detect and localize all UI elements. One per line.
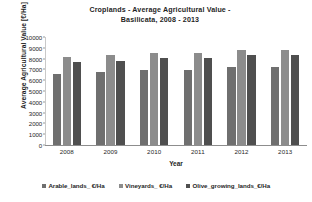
legend-item[interactable]: Olive_growing_lands_€/Ha xyxy=(186,182,270,189)
chart-title: Croplands - Average Agricultural Value -… xyxy=(30,6,290,25)
y-tick-label: 1000 xyxy=(29,131,42,138)
bar[interactable] xyxy=(73,62,82,145)
y-tick-label: 9000 xyxy=(29,44,42,51)
legend-item[interactable]: Vineyards_ €/Ha xyxy=(119,182,172,189)
y-tick-label: 7000 xyxy=(29,66,42,73)
y-axis-title: Average Agricultural Value [€/Ha] xyxy=(20,0,27,116)
y-tick-label: 10000 xyxy=(26,34,42,41)
bar[interactable] xyxy=(204,58,213,145)
bar-groups xyxy=(45,37,307,145)
legend-label: Olive_growing_lands_€/Ha xyxy=(193,182,271,189)
bar[interactable] xyxy=(291,55,300,145)
legend-item[interactable]: Arable_lands_ €/Ha xyxy=(42,182,105,189)
bar[interactable] xyxy=(281,50,290,145)
bar[interactable] xyxy=(227,67,236,145)
y-tick-label: 3000 xyxy=(29,109,42,116)
y-tick-label: 5000 xyxy=(29,88,42,95)
bar[interactable] xyxy=(116,61,125,145)
bar-group xyxy=(220,37,264,145)
chart-legend: Arable_lands_ €/HaVineyards_ €/HaOlive_g… xyxy=(18,182,294,189)
bar[interactable] xyxy=(271,67,280,145)
x-tick-label: 2012 xyxy=(220,148,264,155)
chart-title-line-1: Croplands - Average Agricultural Value - xyxy=(30,6,290,16)
y-tick-label: 8000 xyxy=(29,55,42,62)
x-tick-label: 2011 xyxy=(176,148,220,155)
x-tick-label: 2010 xyxy=(132,148,176,155)
x-tick-label: 2013 xyxy=(263,148,307,155)
bar[interactable] xyxy=(96,72,105,145)
legend-swatch-icon xyxy=(186,184,190,188)
bar-group xyxy=(263,37,307,145)
x-tick-label: 2009 xyxy=(89,148,133,155)
bar[interactable] xyxy=(194,53,203,145)
bar[interactable] xyxy=(106,55,115,145)
y-tick-label: 2000 xyxy=(29,120,42,127)
legend-swatch-icon xyxy=(119,184,123,188)
bar[interactable] xyxy=(53,74,62,145)
legend-swatch-icon xyxy=(42,184,46,188)
y-tick-label: 4000 xyxy=(29,98,42,105)
bar[interactable] xyxy=(160,58,169,145)
y-tick-label: 0 xyxy=(39,142,42,149)
bar[interactable] xyxy=(140,70,149,145)
bar[interactable] xyxy=(247,55,256,145)
plot-area: 1000090008000700060005000400030002000100… xyxy=(45,37,307,145)
legend-label: Vineyards_ €/Ha xyxy=(125,182,172,189)
bar[interactable] xyxy=(184,70,193,145)
x-axis-line xyxy=(45,145,307,146)
bar-group xyxy=(45,37,89,145)
bar[interactable] xyxy=(150,53,159,145)
y-tick-label: 6000 xyxy=(29,77,42,84)
x-tick-label: 2008 xyxy=(45,148,89,155)
bar-group xyxy=(176,37,220,145)
chart-container: Croplands - Average Agricultural Value -… xyxy=(0,0,312,202)
bar[interactable] xyxy=(63,57,72,145)
bar-group xyxy=(132,37,176,145)
x-axis-ticks: 200820092010201120122013 xyxy=(45,148,307,155)
x-axis-title: Year xyxy=(45,160,307,167)
bar[interactable] xyxy=(237,50,246,145)
bar-group xyxy=(89,37,133,145)
legend-label: Arable_lands_ €/Ha xyxy=(48,182,104,189)
chart-title-line-2: Basilicata, 2008 - 2013 xyxy=(30,16,290,26)
